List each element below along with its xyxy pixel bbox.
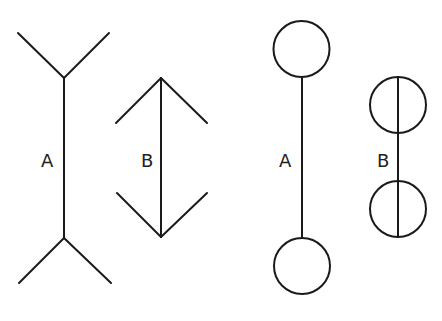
left-b-top-fin-left [116, 78, 161, 123]
left-b-label: B [141, 150, 153, 171]
left-b-bottom-fin-right [161, 193, 207, 237]
right-a-top-circle [274, 21, 330, 77]
right-a-label: A [279, 150, 292, 171]
right-a-bottom-circle [274, 238, 330, 294]
left-b-top-fin-right [161, 78, 207, 123]
left-figure-a: A [18, 33, 111, 283]
right-b-label: B [377, 150, 389, 171]
left-a-bottom-fin-left [19, 238, 64, 283]
left-a-bottom-fin-right [64, 238, 111, 283]
right-figure-a: A [274, 21, 331, 294]
left-a-top-fin-left [18, 33, 64, 78]
left-b-bottom-fin-left [117, 193, 161, 237]
left-figure-b: B [116, 78, 207, 237]
right-figure-b: B [370, 77, 426, 237]
left-a-top-fin-right [64, 33, 109, 78]
left-a-label: A [41, 150, 54, 171]
illusion-diagram: A B A B [0, 0, 442, 321]
